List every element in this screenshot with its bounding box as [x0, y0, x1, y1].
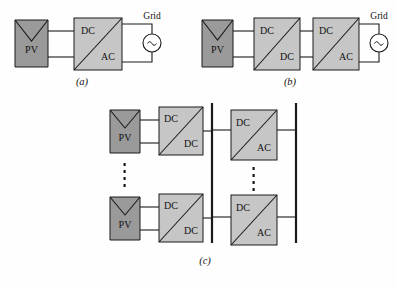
- panel-a-wire-grid-top: [122, 24, 152, 34]
- panel-b-wire-grid-bottom: [359, 52, 379, 62]
- panel-c-top-converter-top-label: DC: [164, 113, 178, 124]
- panel-c-bottom-pv-label: PV: [119, 219, 133, 230]
- panel-c-caption: (c): [199, 255, 211, 267]
- panel-b-converter-2-bottom-label: AC: [339, 51, 353, 62]
- panel-a-converter-top-label: DC: [81, 25, 95, 36]
- panel-c-left-ellipsis-icon: [124, 163, 126, 187]
- panel-c-right-ellipsis-icon: [253, 167, 255, 191]
- panel-b-wire-grid-top: [359, 24, 379, 34]
- panel-c-top-inverter-top-label: DC: [236, 117, 250, 128]
- panel-b-converter-1-top-label: DC: [260, 25, 274, 36]
- panel-c-top-pv-label: PV: [119, 132, 133, 143]
- figure-canvas: PV DC AC Grid (a) PV DC: [0, 0, 396, 288]
- panel-c-top-inverter-bottom-label: AC: [257, 142, 271, 153]
- panel-b-converter-2-top-label: DC: [319, 25, 333, 36]
- panel-c-top-converter-bottom-label: DC: [184, 138, 198, 149]
- panel-b-pv-label: PV: [211, 44, 225, 55]
- panel-b-caption: (b): [284, 76, 297, 88]
- pv-topologies-diagram: PV DC AC Grid (a) PV DC: [0, 0, 396, 288]
- panel-a-wire-grid-bottom: [122, 52, 152, 62]
- panel-a: PV DC AC Grid (a): [15, 11, 161, 88]
- panel-c-bottom-converter-bottom-label: DC: [184, 225, 198, 236]
- panel-a-caption: (a): [76, 76, 89, 88]
- panel-a-converter-bottom-label: AC: [101, 51, 115, 62]
- panel-c-bottom-inverter-bottom-label: AC: [257, 227, 271, 238]
- panel-a-pv-label: PV: [25, 44, 39, 55]
- panel-c: PV DC DC PV DC DC DC AC: [110, 103, 296, 267]
- panel-b-grid-label: Grid: [370, 11, 388, 21]
- panel-c-bottom-inverter-top-label: DC: [236, 202, 250, 213]
- panel-c-bottom-converter-top-label: DC: [164, 200, 178, 211]
- panel-a-grid-label: Grid: [143, 11, 161, 21]
- panel-b: PV DC DC DC AC Grid (b): [202, 11, 388, 88]
- panel-b-converter-1-bottom-label: DC: [280, 51, 294, 62]
